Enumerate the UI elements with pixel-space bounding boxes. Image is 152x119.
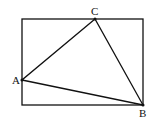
label-c: C <box>91 5 98 17</box>
point-a-dot <box>21 79 24 82</box>
geometry-diagram: A B C <box>0 0 152 119</box>
triangle-abc <box>22 19 143 105</box>
label-b: B <box>139 107 146 119</box>
label-a: A <box>12 74 20 86</box>
diagram-svg: A B C <box>0 0 152 119</box>
point-c-dot <box>94 18 97 21</box>
